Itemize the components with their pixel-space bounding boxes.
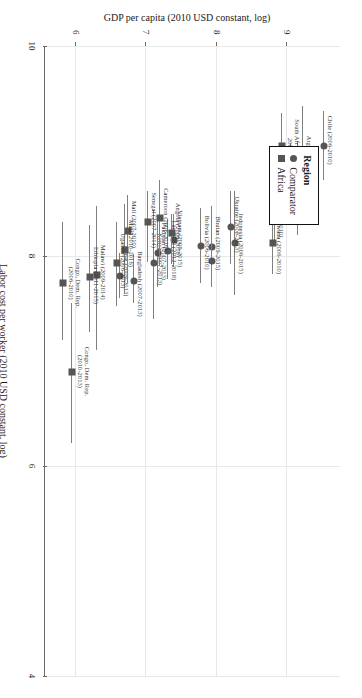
legend-item-africa: Africa	[276, 155, 287, 215]
error-bar	[147, 191, 148, 262]
square-marker-icon	[278, 155, 285, 162]
x-axis-tick	[43, 46, 47, 47]
grid-line-vertical	[44, 46, 340, 47]
point-label: Senegal (2007-2014)	[151, 192, 158, 248]
point-label: Bhutan (2009-2015)	[215, 217, 222, 271]
x-axis-tick-label: 6	[27, 464, 37, 469]
error-bar	[159, 180, 160, 266]
y-axis-tick-label: 9	[282, 30, 292, 35]
y-axis-tick-label: 7	[141, 30, 151, 35]
point-label: Congo, Dem. Rep. (2006-2010)	[68, 252, 82, 314]
point-label: Bangladesh (2007-2013)	[136, 251, 143, 317]
grid-line-vertical	[44, 676, 340, 677]
point-label: Uganda (2006-2013)	[119, 233, 126, 288]
point-label: Malawi (2009-2014)	[100, 245, 107, 300]
x-axis-tick-label: 10	[27, 42, 37, 51]
data-point-marker[interactable]	[60, 280, 67, 287]
point-label: Ethiopia (2011-2015)	[93, 247, 100, 304]
x-axis-tick	[43, 256, 47, 257]
y-axis-tick-label: 8	[212, 30, 222, 35]
y-axis-tick	[145, 42, 146, 46]
plot-area: 108649876 Chile (2006-2010)Argentina (20…	[44, 46, 340, 676]
x-axis-tick-label: 8	[27, 254, 37, 259]
legend-item-comparator: Comparator	[288, 155, 299, 215]
point-label: Angola (2006-2010)	[174, 203, 181, 257]
circle-marker-icon	[290, 155, 297, 162]
point-label: Cameroon (2006-2016)	[162, 188, 169, 250]
figure-rotation-wrapper: 108649876 Chile (2006-2010)Argentina (20…	[0, 0, 362, 698]
error-bar	[171, 214, 172, 264]
y-axis-tick	[216, 42, 217, 46]
point-label: Mali (2010-2016)	[128, 220, 135, 267]
point-label: Chile (2006-2010)	[327, 116, 334, 165]
grid-line-horizontal	[145, 46, 146, 676]
point-label: Congo, Dem. Rep. (2010-2013)	[77, 341, 91, 403]
point-label: Bolivia (2006-2010)	[204, 216, 211, 270]
grid-line-horizontal	[216, 46, 217, 676]
x-axis-line	[44, 46, 45, 676]
x-axis-tick	[43, 676, 47, 677]
y-axis-title: GDP per capita (2010 USD constant, log)	[22, 12, 352, 23]
data-point-marker[interactable]	[69, 368, 76, 375]
point-label: Ukraine (2008-2013)	[234, 197, 241, 253]
legend-box: Region Comparator Africa	[269, 146, 319, 225]
legend-title: Region	[302, 155, 313, 215]
x-axis-tick	[43, 466, 47, 467]
legend-label-africa: Africa	[276, 167, 287, 193]
legend-label-comparator: Comparator	[288, 167, 299, 215]
y-axis-tick	[286, 42, 287, 46]
grid-line-vertical	[44, 466, 340, 467]
grid-line-horizontal	[75, 46, 76, 676]
chart-figure: 108649876 Chile (2006-2010)Argentina (20…	[0, 0, 362, 698]
y-axis-tick	[75, 42, 76, 46]
x-axis-tick-label: 4	[27, 674, 37, 679]
x-axis-title: Labor cost per worker (2010 USD constant…	[0, 46, 9, 676]
y-axis-tick-label: 6	[71, 30, 81, 35]
